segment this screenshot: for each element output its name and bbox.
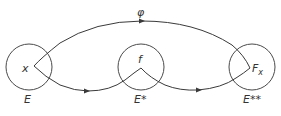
set-E-label: E: [24, 93, 31, 106]
set-E-star-label: E*: [134, 93, 147, 106]
map-E-star-to-E-star-star-arc: [141, 68, 250, 90]
map-E-to-E-star-arc: [34, 66, 141, 91]
element-Fx-label: Fx: [252, 62, 263, 77]
phi-arrowhead-icon: [139, 19, 145, 24]
set-E-star-star-label: E**: [243, 93, 261, 106]
mapping-diagram: φ x f Fx E E* E**: [0, 0, 281, 116]
set-E-star-circle: [118, 44, 164, 90]
phi-label: φ: [137, 6, 145, 19]
set-E-circle: [6, 44, 52, 90]
arrowhead-1-icon: [84, 89, 90, 94]
Fx-subscript-text: x: [257, 68, 263, 77]
element-x-label: x: [21, 62, 29, 75]
element-f-label: f: [138, 53, 144, 66]
arrowhead-2-icon: [196, 88, 202, 93]
